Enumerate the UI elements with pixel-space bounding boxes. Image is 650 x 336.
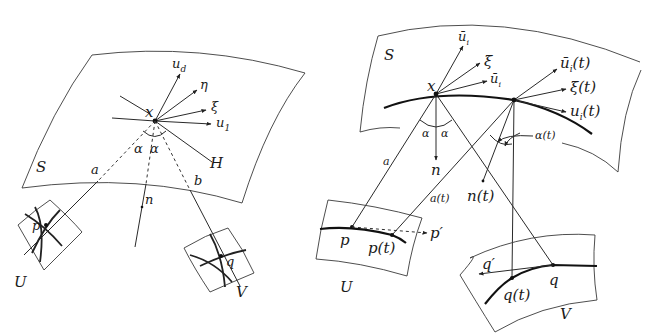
label-xi: ξ [484, 54, 492, 69]
label-xi-t: ξ(t) [570, 80, 596, 95]
right-normal-n-t [483, 100, 514, 181]
left-angle-arc [143, 131, 166, 137]
label-xi: ξ [211, 100, 218, 113]
vector-u-d [155, 74, 180, 121]
label-angle-right: α [150, 142, 159, 155]
right-point-p-t [390, 233, 394, 237]
label-angle-right: α [441, 128, 448, 139]
label-eta: η [200, 78, 208, 91]
label-q-t: q(t) [503, 288, 530, 303]
label-q: q [549, 273, 559, 288]
label-p-t: p(t) [368, 241, 395, 256]
right-ray-to-q-t [512, 100, 514, 278]
label-u-1: u1 [216, 116, 230, 133]
label-p-prime: p′ [430, 226, 443, 241]
figure: ud η ξ u1 x H α α S a b n p q U V S ūi ξ… [0, 0, 650, 336]
label-x: x [145, 105, 153, 120]
label-V: V [236, 285, 247, 300]
label-a-t: a(t) [430, 193, 450, 204]
label-angle-t: α(t) [535, 130, 555, 141]
normal-dot [141, 206, 144, 209]
right-surface-s-top [378, 25, 640, 62]
right-angle-t-pointer2 [505, 133, 520, 146]
label-u-i-t: ui(t) [570, 104, 600, 122]
right-point-x-t [512, 98, 517, 103]
right-patch-V [460, 234, 597, 332]
label-u-d: ud [172, 57, 186, 74]
label-u-bar-i-t: ūi(t) [560, 56, 590, 74]
label-surface-s: S [36, 160, 46, 175]
label-n: n [431, 163, 441, 178]
normal-t-dot [482, 180, 485, 183]
left-point-p [44, 223, 48, 227]
label-p: p [32, 219, 40, 232]
right-point-q-t [510, 276, 514, 280]
label-H: H [210, 156, 223, 171]
vector-u-1 [155, 121, 211, 124]
label-angle-left: α [422, 128, 429, 139]
left-patch-U [18, 200, 82, 270]
left-figure [18, 51, 305, 292]
vector-u-bar-i-top [436, 46, 463, 94]
right-ray-a [352, 94, 436, 227]
right-ray-b [436, 94, 553, 265]
label-surface-s: S [384, 48, 394, 63]
label-q-prime: q′ [482, 257, 495, 272]
label-angle-left: α [134, 142, 143, 155]
label-u-bar-i-tangent: ūi [490, 72, 501, 89]
label-U: U [14, 275, 27, 290]
label-u-bar-i-top: ūi [458, 30, 469, 47]
label-n-t: n(t) [467, 189, 494, 204]
line-H [155, 121, 212, 162]
left-point-q [219, 254, 223, 258]
right-patch-U [316, 200, 422, 276]
label-b: b [194, 174, 202, 187]
label-V: V [560, 307, 571, 322]
label-a: a [91, 163, 99, 176]
right-angle-t-pointer [498, 136, 533, 142]
label-U: U [340, 280, 353, 295]
label-n: n [145, 193, 153, 206]
right-figure [316, 25, 641, 332]
vector-xi [436, 63, 480, 94]
left-ray-b-dashed [155, 121, 190, 190]
label-a: a [383, 156, 390, 167]
vector-u-bar-i-tangent [436, 81, 487, 94]
vector-u-i-t [514, 100, 566, 112]
label-p: p [340, 233, 350, 248]
label-x: x [427, 79, 435, 94]
label-q: q [226, 255, 234, 268]
left-ray-a-dashed [98, 121, 155, 181]
